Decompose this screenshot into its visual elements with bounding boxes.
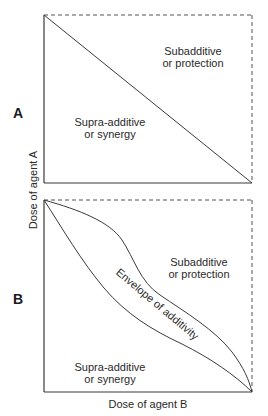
- y-axis-label: Dose of agent A: [27, 150, 39, 229]
- panel-b: B Subadditive or protection Envelope of …: [13, 200, 252, 392]
- panel-b-subadditive-line2: or protection: [168, 268, 229, 280]
- panel-a-label: A: [13, 105, 23, 121]
- panel-a-supra-additive-line2: or synergy: [84, 128, 136, 140]
- panel-a-supra-additive-line1: Supra-additive: [75, 116, 146, 128]
- panel-a-subadditive-line2: or protection: [162, 57, 223, 69]
- panel-b-label: B: [13, 291, 23, 307]
- panel-b-subadditive-line1: Subadditive: [170, 256, 228, 268]
- isobologram-figure: A Subadditive or protection Supra-additi…: [0, 0, 268, 416]
- panel-a-subadditive-line1: Subadditive: [164, 45, 222, 57]
- panel-a: A Subadditive or protection Supra-additi…: [13, 15, 252, 183]
- panel-b-supra-additive-line1: Supra-additive: [75, 361, 146, 373]
- panel-b-supra-additive-line2: or synergy: [84, 373, 136, 385]
- x-axis-label: Dose of agent B: [109, 398, 188, 410]
- panel-a-additivity-line: [44, 15, 252, 183]
